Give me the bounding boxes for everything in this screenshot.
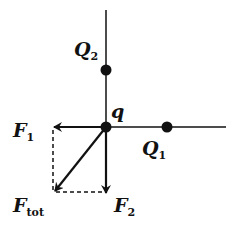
label-F1: F1 [13,121,34,140]
label-Q1: Q1 [142,139,166,158]
label-F1-main: F [13,119,27,141]
label-Q2: Q2 [74,40,98,59]
label-Ftot-main: F [13,194,27,216]
label-q: q [111,102,124,121]
ftot-arrow [55,127,106,191]
charge-Q1-dot [162,122,173,133]
label-Q1-main: Q [142,137,159,159]
label-Q1-sub: 1 [159,149,167,162]
charge-Q2-dot [101,65,112,76]
label-F1-sub: 1 [27,131,35,144]
coulomb-force-diagram: Q2 q Q1 F1 F2 Ftot [0,0,243,230]
label-F2: F2 [114,196,135,215]
charge-q-dot [101,122,112,133]
label-Q2-sub: 2 [91,50,99,63]
label-Ftot-sub: tot [27,206,45,219]
label-Q2-main: Q [74,38,91,60]
label-F2-sub: 2 [128,206,136,219]
label-F2-main: F [114,194,128,216]
label-Ftot: Ftot [13,196,44,215]
label-q-main: q [111,100,124,122]
